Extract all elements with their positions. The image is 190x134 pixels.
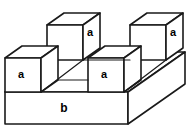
cube-back-left-label: a <box>87 26 94 38</box>
cube-front-right-label: a <box>101 68 108 80</box>
base-slab-label: b <box>60 101 67 115</box>
isometric-figure: a a a a <box>0 0 190 134</box>
isometric-figure-canvas: a a a a <box>0 0 190 134</box>
cube-back-right-label: a <box>170 26 177 38</box>
cube-front-left-label: a <box>18 68 25 80</box>
